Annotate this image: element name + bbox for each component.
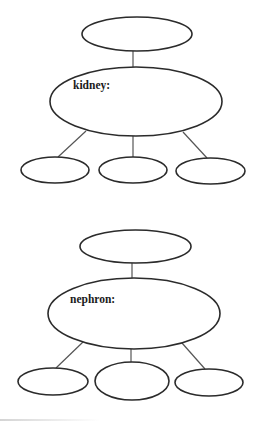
connector-center-to-left-child [58, 131, 86, 157]
worksheet-canvas: kidney: nephron: [0, 0, 264, 422]
top-node-ellipse[interactable] [80, 230, 191, 263]
connector-center-to-right-child [182, 343, 205, 369]
right-child-ellipse[interactable] [176, 158, 245, 184]
page-edge-shadow [0, 419, 100, 421]
top-node-ellipse[interactable] [82, 17, 192, 51]
nephron-concept-map: nephron: [18, 230, 243, 400]
center-node-ellipse[interactable] [48, 278, 220, 349]
right-child-ellipse[interactable] [175, 369, 243, 396]
kidney-concept-map: kidney: [21, 17, 245, 184]
connector-center-to-left-child [56, 342, 83, 368]
middle-child-ellipse[interactable] [99, 157, 167, 183]
center-node-ellipse[interactable] [50, 67, 222, 136]
concept-map-diagram: kidney: nephron: [0, 0, 264, 422]
kidney-label: kidney: [73, 79, 110, 92]
middle-child-ellipse[interactable] [95, 362, 169, 400]
nephron-label: nephron: [70, 293, 115, 306]
left-child-ellipse[interactable] [21, 157, 89, 183]
connector-center-to-right-child [183, 132, 207, 158]
left-child-ellipse[interactable] [18, 368, 88, 395]
